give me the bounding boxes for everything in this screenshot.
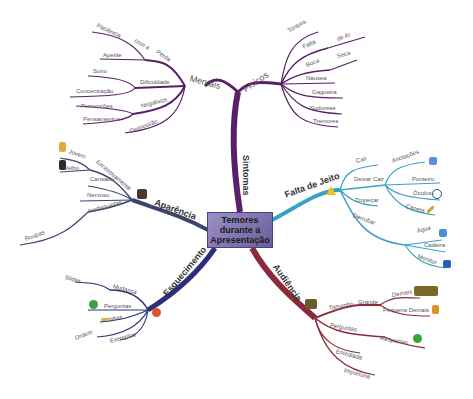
node-tropecar[interactable]: Tropeçar xyxy=(355,197,379,203)
young-person-icon xyxy=(59,142,66,152)
node-cadeira[interactable]: Cadeira xyxy=(424,242,445,248)
node-dificuldade[interactable]: Dificuldade xyxy=(140,79,170,85)
node-velho[interactable]: Velho xyxy=(64,165,79,171)
crowd-icon xyxy=(414,286,438,296)
node-ponteiro[interactable]: Ponteiro xyxy=(412,176,434,182)
node-perguntas-esq[interactable]: Perguntas xyxy=(104,303,131,309)
node-nausea[interactable]: Náusea xyxy=(306,75,327,81)
central-topic[interactable]: Temores durante a Apresentação xyxy=(207,212,273,248)
question-icon xyxy=(89,300,98,309)
node-grande[interactable]: Grande xyxy=(358,299,378,305)
lines-icon xyxy=(101,318,109,321)
old-person-icon xyxy=(59,160,66,170)
node-oculos[interactable]: Óculos xyxy=(413,190,432,196)
central-line-1: Temores xyxy=(208,215,272,225)
audience-icon xyxy=(305,299,317,309)
person-icon xyxy=(137,189,147,199)
node-percepcoes[interactable]: Percepções xyxy=(81,103,113,109)
central-line-2: durante a xyxy=(208,225,272,235)
node-tremores[interactable]: Tremores xyxy=(313,118,338,124)
small-audience-icon xyxy=(432,305,439,314)
node-sono[interactable]: Sono xyxy=(93,68,107,74)
glasses-icon xyxy=(432,189,442,199)
branch-sintomas[interactable]: Sintomas xyxy=(241,155,251,196)
notes-icon xyxy=(429,157,437,165)
water-glass-icon xyxy=(439,229,447,237)
node-sudorese[interactable]: Sudorese xyxy=(310,105,336,111)
node-pequena-demais[interactable]: Pequena Demais xyxy=(383,307,429,313)
stop-icon xyxy=(152,308,161,317)
warning-icon xyxy=(326,186,336,195)
node-deixar-cair[interactable]: Deixar Cair xyxy=(354,176,384,182)
monitor-icon xyxy=(443,260,451,268)
node-concentracao[interactable]: Concentração xyxy=(76,88,113,94)
node-pensamentos[interactable]: Pensamentos xyxy=(83,116,120,122)
node-gagueira[interactable]: Gagueira xyxy=(312,89,337,95)
node-nervoso[interactable]: Nervoso xyxy=(87,192,109,198)
central-line-3: Apresentação xyxy=(208,235,272,245)
question-icon xyxy=(413,334,422,343)
node-apetite[interactable]: Apetite xyxy=(103,52,122,58)
node-cansado[interactable]: Cansado xyxy=(90,176,114,182)
